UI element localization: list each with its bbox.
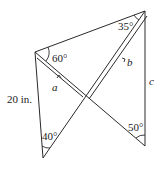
- side-label-b: b: [127, 56, 133, 68]
- b-bracket: [122, 58, 125, 62]
- angle-arc-35: [134, 15, 139, 20]
- angle-label-40: 40°: [42, 130, 57, 142]
- left-edge: [35, 52, 43, 158]
- angle-label-60: 60°: [52, 52, 67, 64]
- angle-arc-40: [42, 146, 50, 148]
- side-label-c: c: [149, 75, 154, 87]
- angle-arc-50: [136, 135, 145, 138]
- side-label-20in: 20 in.: [7, 93, 32, 105]
- angle-arc-60: [46, 47, 49, 61]
- angle-label-35: 35°: [118, 20, 133, 32]
- geometry-diagram: 60° 35° 40° 50° 20 in. a b c: [0, 0, 161, 169]
- side-label-a: a: [52, 81, 58, 93]
- angle-label-50: 50°: [128, 121, 143, 133]
- diagonal-bl-tr: [43, 11, 145, 158]
